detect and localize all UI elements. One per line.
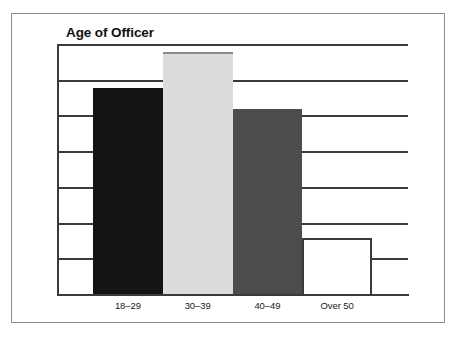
age-of-officer-bar-chart: 0%5%10%15%20%25%30%35% 18–2930–3940–49Ov… xyxy=(0,0,458,337)
bar-series xyxy=(57,45,408,295)
x-tick-label: 40–49 xyxy=(233,300,303,311)
x-axis-line xyxy=(57,294,409,296)
bar xyxy=(163,52,233,295)
bar xyxy=(93,88,163,295)
chart-title: Age of Officer xyxy=(66,25,154,40)
bar xyxy=(233,109,303,295)
bar xyxy=(302,238,372,295)
x-tick-label: 18–29 xyxy=(93,300,163,311)
x-tick-label: 30–39 xyxy=(163,300,233,311)
x-axis-tick-labels: 18–2930–3940–49Over 50 xyxy=(57,300,408,320)
y-axis-tick-labels: 0%5%10%15%20%25%30%35% xyxy=(0,0,57,337)
x-tick-label: Over 50 xyxy=(302,300,372,311)
